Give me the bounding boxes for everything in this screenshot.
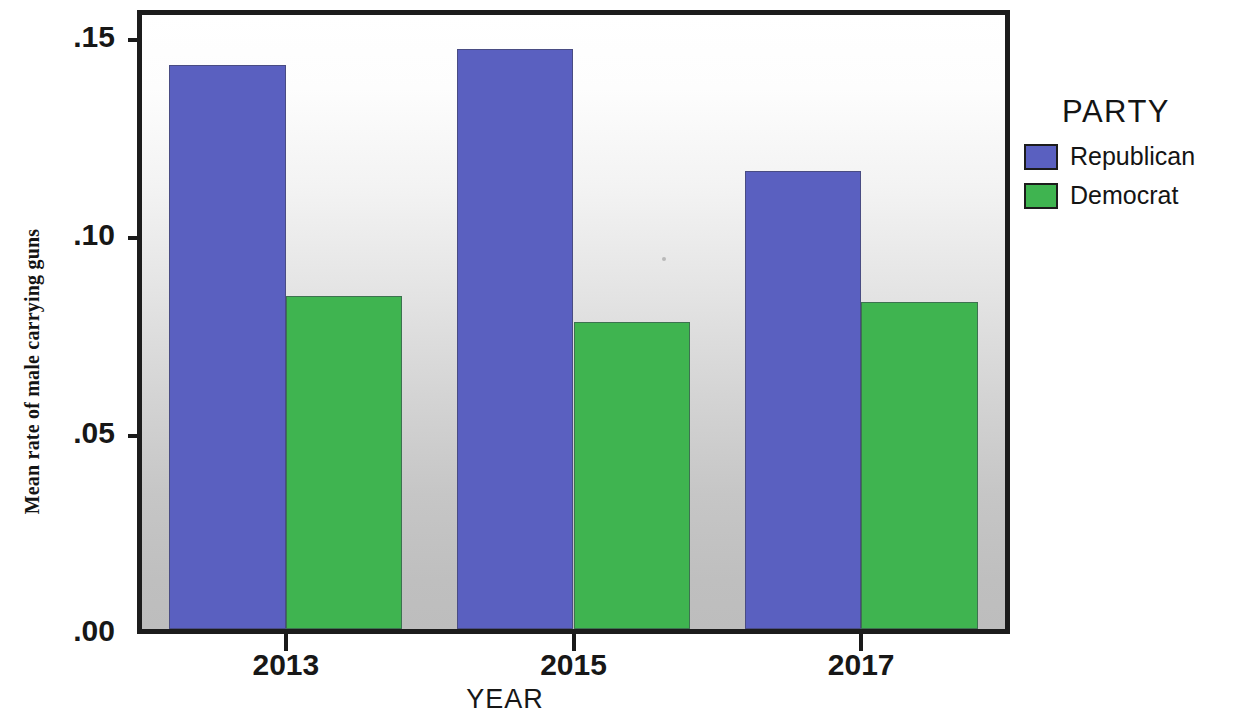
legend: PARTY Republican Democrat bbox=[1024, 94, 1232, 220]
y-tick-label: .15 bbox=[23, 22, 115, 52]
bar-republican-2017[interactable] bbox=[745, 171, 862, 629]
plot-area bbox=[137, 10, 1010, 634]
legend-item-democrat[interactable]: Democrat bbox=[1024, 181, 1232, 210]
y-tick-label: .05 bbox=[23, 418, 115, 448]
scan-speck bbox=[662, 257, 666, 261]
bar-democrat-2015[interactable] bbox=[574, 322, 691, 629]
y-tick-label: .00 bbox=[23, 616, 115, 646]
x-tick-label: 2015 bbox=[484, 648, 664, 682]
y-axis-ticks: .15.10.05.00 bbox=[10, 0, 115, 717]
legend-title: PARTY bbox=[1062, 94, 1232, 130]
bar-democrat-2013[interactable] bbox=[286, 296, 403, 629]
legend-swatch-republican bbox=[1024, 144, 1058, 170]
x-axis-title: YEAR bbox=[0, 684, 1010, 715]
y-tick-label: .10 bbox=[23, 220, 115, 250]
x-tick-label: 2013 bbox=[196, 648, 376, 682]
legend-label-democrat: Democrat bbox=[1070, 181, 1178, 210]
bar-republican-2013[interactable] bbox=[169, 65, 286, 629]
bar-chart: Mean rate of male carrying guns .15.10.0… bbox=[0, 0, 1234, 717]
bar-republican-2015[interactable] bbox=[457, 49, 574, 629]
x-tick-label: 2017 bbox=[771, 648, 951, 682]
legend-swatch-democrat bbox=[1024, 183, 1058, 209]
bars-container bbox=[142, 15, 1005, 629]
legend-item-republican[interactable]: Republican bbox=[1024, 142, 1232, 171]
legend-label-republican: Republican bbox=[1070, 142, 1195, 171]
bar-democrat-2017[interactable] bbox=[861, 302, 978, 629]
